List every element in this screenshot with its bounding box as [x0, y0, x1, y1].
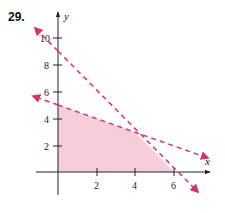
x-tick-label-6: 6 [171, 180, 176, 191]
feasible-region [58, 105, 174, 172]
x-tick-label-4: 4 [132, 180, 137, 191]
y-tick-label-8: 8 [44, 60, 49, 71]
graph: 2 4 6 2 4 6 8 10 x y [0, 0, 225, 213]
y-tick-label-4: 4 [44, 114, 49, 125]
y-tick-label-6: 6 [44, 87, 49, 98]
y-tick-label-2: 2 [44, 141, 49, 152]
x-tick-label-2: 2 [94, 180, 99, 191]
y-axis-label: y [63, 10, 69, 22]
